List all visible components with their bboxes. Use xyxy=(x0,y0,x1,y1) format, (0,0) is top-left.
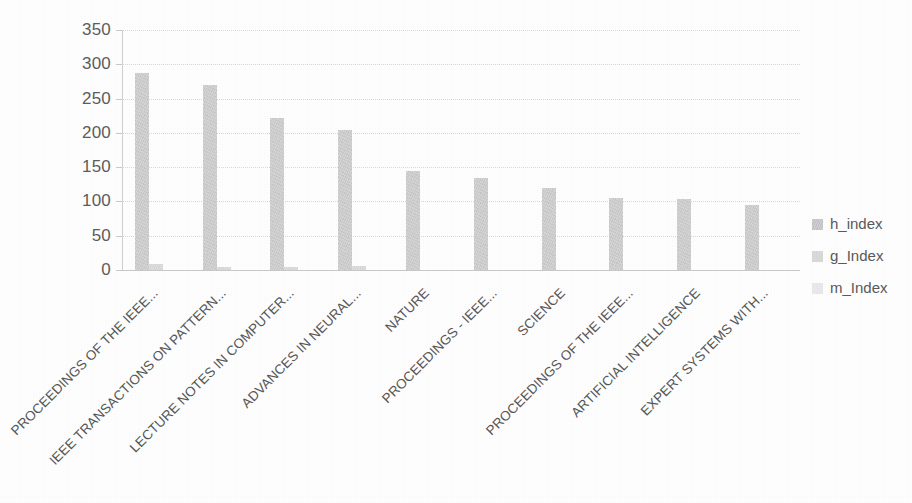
y-axis-tick-label: 150 xyxy=(71,158,111,175)
legend-item[interactable]: g_Index xyxy=(812,240,908,272)
bar[interactable] xyxy=(677,199,691,270)
y-axis-tick-mark xyxy=(116,99,122,100)
square-swatch-icon xyxy=(812,219,823,230)
y-axis-tick-mark xyxy=(116,30,122,31)
bar[interactable] xyxy=(270,118,284,270)
bar[interactable] xyxy=(542,188,556,270)
bar-group xyxy=(474,30,516,270)
y-axis-tick-label: 250 xyxy=(71,90,111,107)
bar[interactable] xyxy=(352,266,366,270)
bar[interactable] xyxy=(609,198,623,270)
legend-item-label: m_Index xyxy=(830,280,888,296)
bar-group xyxy=(609,30,651,270)
square-swatch-icon xyxy=(812,283,823,294)
axis-baseline xyxy=(122,270,800,271)
bar-group xyxy=(203,30,245,270)
bar[interactable] xyxy=(135,73,149,270)
bar[interactable] xyxy=(745,205,759,270)
bar[interactable] xyxy=(406,171,420,270)
legend-item-label: g_Index xyxy=(830,248,883,264)
legend-item[interactable]: h_index xyxy=(812,208,908,240)
bar-group xyxy=(406,30,448,270)
y-axis-tick-label: 100 xyxy=(71,192,111,209)
bar[interactable] xyxy=(203,85,217,270)
bar[interactable] xyxy=(149,264,163,270)
legend-item-label: h_index xyxy=(830,216,883,232)
y-axis-tick-label: 300 xyxy=(71,55,111,72)
y-axis-tick-label: 0 xyxy=(71,261,111,278)
y-axis-tick-mark xyxy=(116,64,122,65)
y-axis-tick-label: 50 xyxy=(71,227,111,244)
bar[interactable] xyxy=(338,130,352,270)
y-axis-tick-mark xyxy=(116,236,122,237)
chart-legend: h_indexg_Indexm_Index xyxy=(812,208,908,304)
y-axis-tick-mark xyxy=(116,167,122,168)
y-axis-tick-label: 350 xyxy=(71,21,111,38)
bar-chart: 350300250200150100500 PROCEEDINGS OF THE… xyxy=(0,0,912,503)
bar[interactable] xyxy=(284,267,298,270)
y-axis-tick-mark xyxy=(116,270,122,271)
y-axis-tick-label: 200 xyxy=(71,124,111,141)
bar[interactable] xyxy=(217,267,231,270)
bar-group xyxy=(135,30,177,270)
plot-area xyxy=(122,30,800,270)
y-axis-tick-mark xyxy=(116,133,122,134)
bar-group xyxy=(745,30,787,270)
bar-group xyxy=(542,30,584,270)
bar-group xyxy=(270,30,312,270)
square-swatch-icon xyxy=(812,251,823,262)
y-axis-tick-mark xyxy=(116,201,122,202)
bar-group xyxy=(338,30,380,270)
bar-group xyxy=(677,30,719,270)
legend-item[interactable]: m_Index xyxy=(812,272,908,304)
bar[interactable] xyxy=(474,178,488,270)
